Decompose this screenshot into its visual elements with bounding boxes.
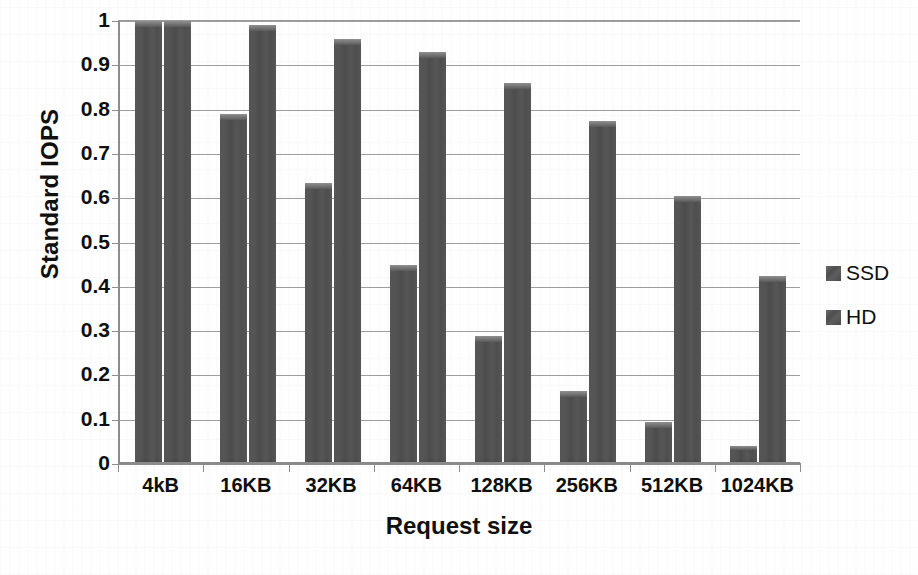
y-axis-tick-mark	[112, 198, 120, 199]
bar-ssd-128kb	[475, 336, 502, 464]
x-axis-tick-label: 4kB	[118, 474, 203, 508]
bar-chart: Standard IOPS 00.10.20.30.40.50.60.70.80…	[0, 0, 918, 575]
y-axis-tick-label: 0.6	[48, 185, 110, 209]
x-axis-tick-mark	[630, 463, 631, 472]
bar-group	[120, 21, 205, 464]
y-axis-tick-labels: 00.10.20.30.40.50.60.70.80.91	[48, 20, 110, 463]
bar-hd-128kb	[504, 83, 531, 464]
bar-hd-32kb	[334, 39, 361, 464]
bar-hd-4kb	[164, 21, 191, 464]
bar-group	[290, 21, 375, 464]
x-axis-tick-label: 32KB	[289, 474, 374, 508]
bar-ssd-32kb	[305, 183, 332, 464]
bar-groups	[120, 21, 800, 464]
x-axis-tick-label: 256KB	[544, 474, 629, 508]
y-axis-tick-mark	[112, 21, 120, 22]
bar-group	[630, 21, 715, 464]
y-axis-tick-mark	[112, 154, 120, 155]
x-axis-tick-mark	[374, 463, 375, 472]
bar-hd-256kb	[589, 121, 616, 464]
legend-swatch-icon	[826, 266, 841, 281]
bar-group	[545, 21, 630, 464]
chart-page: Standard IOPS 00.10.20.30.40.50.60.70.80…	[0, 0, 918, 575]
y-axis-tick-label: 0	[48, 451, 110, 475]
bar-hd-16kb	[249, 25, 276, 464]
y-axis-tick-mark	[112, 243, 120, 244]
bar-ssd-512kb	[645, 422, 672, 464]
legend-swatch-icon	[826, 310, 841, 325]
legend-item-ssd[interactable]: SSD	[826, 262, 916, 284]
bar-hd-512kb	[674, 196, 701, 464]
bar-ssd-4kb	[135, 21, 162, 464]
bar-group	[460, 21, 545, 464]
y-axis-tick-label: 0.5	[48, 230, 110, 254]
x-axis-title: Request size	[118, 512, 800, 540]
bar-group	[715, 21, 800, 464]
bar-group	[375, 21, 460, 464]
x-axis-tick-label: 64KB	[374, 474, 459, 508]
y-axis-tick-label: 0.2	[48, 362, 110, 386]
x-axis-tick-label: 512KB	[630, 474, 715, 508]
x-axis-tick-label: 128KB	[459, 474, 544, 508]
x-axis-tick-mark	[800, 463, 801, 472]
bar-ssd-64kb	[390, 265, 417, 464]
y-axis-tick-label: 0.9	[48, 52, 110, 76]
y-axis-tick-mark	[112, 331, 120, 332]
x-axis-tick-mark	[715, 463, 716, 472]
bar-ssd-256kb	[560, 391, 587, 464]
x-axis-tick-mark	[289, 463, 290, 472]
y-axis-tick-label: 1	[48, 8, 110, 32]
x-axis-tick-label: 16KB	[203, 474, 288, 508]
bar-ssd-16kb	[220, 114, 247, 464]
x-axis-tick-mark	[544, 463, 545, 472]
legend: SSDHD	[826, 262, 916, 350]
plot-area	[118, 20, 800, 463]
x-axis-tick-mark	[118, 463, 119, 472]
legend-label: SSD	[846, 261, 889, 285]
y-axis-tick-mark	[112, 420, 120, 421]
legend-label: HD	[846, 305, 876, 329]
y-axis-tick-label: 0.7	[48, 141, 110, 165]
y-axis-tick-label: 0.3	[48, 318, 110, 342]
legend-item-hd[interactable]: HD	[826, 306, 916, 328]
bar-hd-64kb	[419, 52, 446, 464]
bar-group	[205, 21, 290, 464]
y-axis-tick-label: 0.1	[48, 407, 110, 431]
y-axis-tick-label: 0.8	[48, 97, 110, 121]
y-axis-tick-mark	[112, 110, 120, 111]
x-axis-tick-label: 1024KB	[715, 474, 800, 508]
y-axis-tick-mark	[112, 287, 120, 288]
y-axis-tick-mark	[112, 65, 120, 66]
x-axis-tick-mark	[459, 463, 460, 472]
bar-hd-1024kb	[759, 276, 786, 464]
y-axis-tick-label: 0.4	[48, 274, 110, 298]
y-axis-tick-mark	[112, 375, 120, 376]
x-axis-tick-marks	[118, 463, 800, 473]
x-axis-tick-mark	[203, 463, 204, 472]
x-axis-tick-labels: 4kB16KB32KB64KB128KB256KB512KB1024KB	[118, 474, 800, 508]
